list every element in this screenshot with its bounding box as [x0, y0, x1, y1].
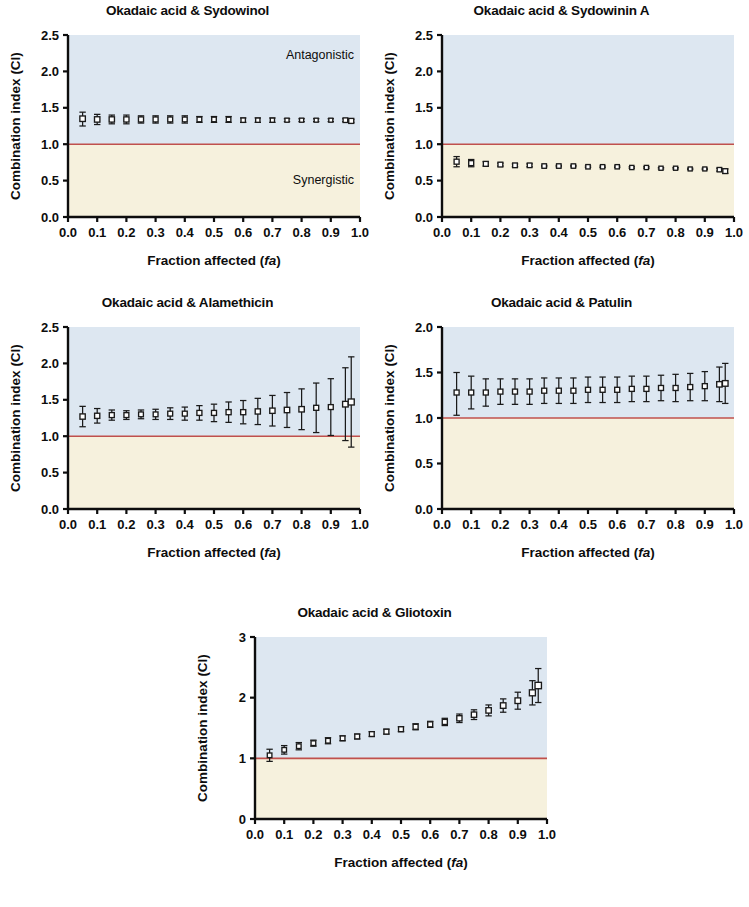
x-axis-title: Fraction affected (fa): [521, 253, 655, 268]
x-tick-label: 0.7: [637, 517, 655, 532]
x-tick-label: 0.0: [246, 827, 264, 842]
panel-title: Okadaic acid & Alamethicin: [0, 296, 375, 311]
data-point-marker: [600, 164, 604, 168]
x-tick-label: 0.7: [263, 517, 281, 532]
y-tick-label: 1.0: [41, 137, 59, 152]
data-point-marker: [557, 164, 562, 169]
data-point-marker: [469, 160, 474, 165]
data-point-marker: [674, 166, 678, 170]
x-tick-label: 0.1: [88, 517, 106, 532]
data-point-marker: [138, 117, 143, 122]
antagonistic-zone: [255, 637, 547, 758]
x-tick-label: 0.2: [491, 517, 509, 532]
data-point-marker: [340, 736, 345, 741]
data-point-marker: [615, 387, 620, 392]
data-point-marker: [399, 727, 404, 732]
data-point-marker: [153, 412, 158, 417]
data-point-marker: [124, 117, 129, 122]
data-point-marker: [256, 118, 260, 122]
x-tick-label: 0.5: [205, 517, 223, 532]
x-tick-label: 0.0: [59, 225, 77, 240]
data-point-marker: [343, 118, 348, 123]
y-tick-label: 2.5: [415, 27, 433, 42]
x-tick-label: 0.0: [433, 517, 451, 532]
x-tick-label: 0.2: [304, 827, 322, 842]
x-tick-label: 0.3: [147, 225, 165, 240]
x-tick-label: 0.3: [521, 225, 539, 240]
y-tick-label: 2: [239, 690, 246, 705]
y-tick-label: 2.0: [415, 319, 433, 334]
data-point-marker: [483, 390, 488, 395]
data-point-marker: [326, 738, 331, 743]
x-axis-title: Fraction affected (fa): [147, 545, 281, 560]
data-point-marker: [124, 412, 129, 417]
y-tick-label: 0.0: [41, 501, 59, 516]
synergistic-zone: [442, 418, 734, 509]
y-tick-label: 1.0: [415, 410, 433, 425]
data-point-marker: [80, 414, 85, 419]
data-point-marker: [629, 386, 634, 391]
x-tick-label: 0.1: [462, 225, 480, 240]
data-point-marker: [442, 719, 447, 724]
synergistic-label: Synergistic: [293, 173, 354, 187]
panel-title: Okadaic acid & Gliotoxin: [187, 606, 562, 621]
x-tick-label: 0.1: [88, 225, 106, 240]
x-axis-title: Fraction affected (fa): [334, 855, 468, 870]
x-tick-label: 0.3: [147, 517, 165, 532]
x-tick-label: 0.1: [462, 517, 480, 532]
data-point-marker: [529, 690, 535, 696]
data-point-marker: [95, 117, 100, 122]
y-tick-label: 2.5: [41, 319, 59, 334]
data-point-marker: [197, 117, 202, 122]
x-tick-label: 0.3: [334, 827, 352, 842]
data-point-marker: [80, 116, 86, 122]
antagonistic-label: Antagonistic: [286, 48, 354, 62]
panel-sydowinin-a: Okadaic acid & Sydowinin A 0.00.51.01.52…: [374, 4, 749, 277]
data-point-marker: [615, 164, 619, 168]
data-point-marker: [644, 165, 648, 169]
synergistic-zone: [255, 758, 547, 819]
data-point-marker: [703, 167, 707, 171]
data-point-marker: [139, 412, 144, 417]
y-axis-title: Combination index (CI): [195, 654, 210, 802]
data-point-marker: [270, 118, 274, 122]
data-point-marker: [454, 390, 459, 395]
x-tick-label: 0.9: [509, 827, 527, 842]
data-point-marker: [300, 118, 304, 122]
figure-combination-index-panels: Okadaic acid & Sydowinol AntagonisticSyn…: [0, 0, 749, 907]
chart-svg-alamethicin: 0.00.51.01.52.02.50.00.10.20.30.40.50.60…: [0, 311, 375, 565]
data-point-marker: [527, 163, 532, 168]
x-tick-label: 0.5: [579, 225, 597, 240]
x-tick-label: 0.3: [521, 517, 539, 532]
y-tick-label: 1.5: [415, 365, 433, 380]
x-tick-label: 1.0: [725, 225, 743, 240]
data-point-marker: [673, 385, 678, 390]
data-point-marker: [348, 399, 354, 405]
x-tick-label: 0.4: [550, 517, 569, 532]
data-point-marker: [109, 117, 114, 122]
data-point-marker: [329, 118, 333, 122]
data-point-marker: [369, 732, 374, 737]
data-point-marker: [659, 166, 663, 170]
data-point-marker: [542, 164, 547, 169]
chart-svg-patulin: 0.00.51.01.52.00.00.10.20.30.40.50.60.70…: [374, 311, 749, 565]
x-tick-label: 0.4: [363, 827, 382, 842]
y-tick-label: 0.5: [41, 465, 59, 480]
x-tick-label: 1.0: [725, 517, 743, 532]
data-point-marker: [471, 712, 476, 717]
data-point-marker: [688, 167, 692, 171]
data-point-marker: [717, 381, 722, 386]
data-point-marker: [659, 385, 664, 390]
x-tick-label: 0.8: [293, 517, 311, 532]
y-tick-label: 0.0: [41, 209, 59, 224]
data-point-marker: [486, 708, 491, 713]
y-axis-title: Combination index (CI): [382, 344, 397, 492]
data-point-marker: [644, 386, 649, 391]
data-point-marker: [586, 387, 591, 392]
x-tick-label: 0.6: [421, 827, 439, 842]
x-tick-label: 0.5: [392, 827, 410, 842]
data-point-marker: [457, 716, 462, 721]
x-tick-label: 0.0: [59, 517, 77, 532]
data-point-marker: [349, 118, 354, 123]
y-axis-title: Combination index (CI): [8, 344, 23, 492]
